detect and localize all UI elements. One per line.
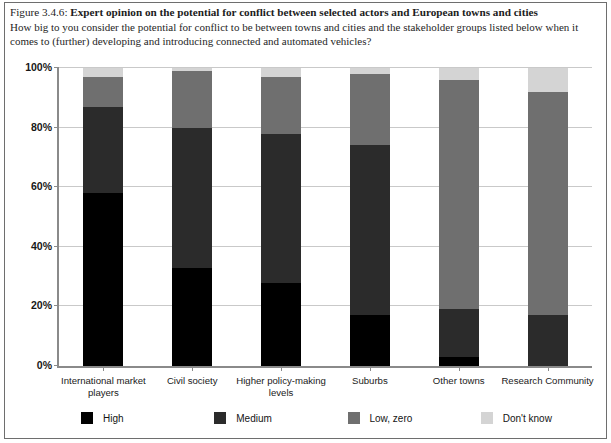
y-axis-tick-label: 40%: [31, 240, 52, 252]
bar-segment[interactable]: [350, 74, 390, 146]
legend-item[interactable]: Don't know: [457, 412, 590, 424]
x-axis-tick-mark: [192, 366, 193, 371]
legend-label: Low, zero: [370, 413, 413, 424]
bar-segment[interactable]: [83, 77, 123, 107]
bar-segment[interactable]: [261, 134, 301, 283]
bar-segment[interactable]: [350, 145, 390, 315]
x-axis-tick-mark: [548, 366, 549, 371]
bar-segment[interactable]: [439, 357, 479, 366]
legend-label: Medium: [236, 413, 272, 424]
bar-segment[interactable]: [261, 283, 301, 366]
x-axis-tick-label: Research Community: [501, 375, 595, 387]
legend-label: Don't know: [503, 413, 552, 424]
legend-item[interactable]: Medium: [190, 412, 323, 424]
figure-title: Expert opinion on the potential for conf…: [70, 6, 538, 18]
figure-number: Figure 3.4.6:: [10, 6, 68, 18]
bar-segment[interactable]: [261, 77, 301, 134]
stacked-bar[interactable]: [261, 68, 301, 366]
x-axis-tick-label: International market players: [56, 375, 150, 398]
bar-slot: Suburbs: [325, 68, 414, 366]
bar-slot: Research Community: [503, 68, 592, 366]
x-axis-tick-mark: [370, 366, 371, 371]
bar-group: International market playersCivil societ…: [59, 68, 592, 366]
legend-item[interactable]: High: [57, 412, 190, 424]
x-axis-tick-label: Suburbs: [323, 375, 417, 387]
bar-slot: Higher policy-making levels: [237, 68, 326, 366]
x-axis-tick-mark: [103, 366, 104, 371]
y-axis-tick-label: 100%: [25, 61, 52, 73]
bar-segment[interactable]: [528, 68, 568, 92]
y-axis-tick-label: 20%: [31, 299, 52, 311]
bar-segment[interactable]: [439, 68, 479, 80]
bar-segment[interactable]: [528, 315, 568, 366]
x-axis-tick-mark: [459, 366, 460, 371]
bar-segment[interactable]: [172, 71, 212, 128]
legend-item[interactable]: Low, zero: [324, 412, 457, 424]
bar-segment[interactable]: [350, 315, 390, 366]
bar-segment[interactable]: [261, 68, 301, 77]
x-axis-tick-mark: [281, 366, 282, 371]
stacked-bar[interactable]: [172, 68, 212, 366]
stacked-bar[interactable]: [439, 68, 479, 366]
figure-question: How big to you consider the potential fo…: [10, 21, 590, 48]
bar-segment[interactable]: [439, 309, 479, 357]
bar-segment[interactable]: [83, 107, 123, 193]
bar-segment[interactable]: [172, 128, 212, 268]
y-axis-tick-label: 60%: [31, 180, 52, 192]
legend-swatch-icon: [348, 412, 360, 424]
stacked-bar[interactable]: [528, 68, 568, 366]
bar-slot: International market players: [59, 68, 148, 366]
bar-segment[interactable]: [528, 92, 568, 316]
bar-segment[interactable]: [172, 268, 212, 366]
stacked-bar[interactable]: [83, 68, 123, 366]
plot-area: 0%20%40%60%80%100% International market …: [57, 68, 592, 368]
chart: 0%20%40%60%80%100% International market …: [10, 60, 596, 435]
x-axis-tick-label: Other towns: [412, 375, 506, 387]
stacked-bar[interactable]: [350, 68, 390, 366]
legend-swatch-icon: [81, 412, 93, 424]
bar-slot: Civil society: [148, 68, 237, 366]
y-axis-tick-label: 0%: [37, 359, 52, 371]
y-axis-tick-label: 80%: [31, 121, 52, 133]
x-axis-tick-label: Higher policy-making levels: [234, 375, 328, 398]
bar-segment[interactable]: [83, 68, 123, 77]
legend-swatch-icon: [481, 412, 493, 424]
legend-swatch-icon: [214, 412, 226, 424]
caption-headline: Figure 3.4.6: Expert opinion on the pote…: [10, 5, 596, 19]
figure-container: Figure 3.4.6: Expert opinion on the pote…: [0, 0, 611, 443]
figure-caption: Figure 3.4.6: Expert opinion on the pote…: [10, 5, 596, 48]
x-axis-tick-label: Civil society: [145, 375, 239, 387]
bar-slot: Other towns: [414, 68, 503, 366]
legend-label: High: [103, 413, 124, 424]
bar-segment[interactable]: [439, 80, 479, 309]
chart-legend: HighMediumLow, zeroDon't know: [57, 412, 590, 424]
bar-segment[interactable]: [83, 193, 123, 366]
